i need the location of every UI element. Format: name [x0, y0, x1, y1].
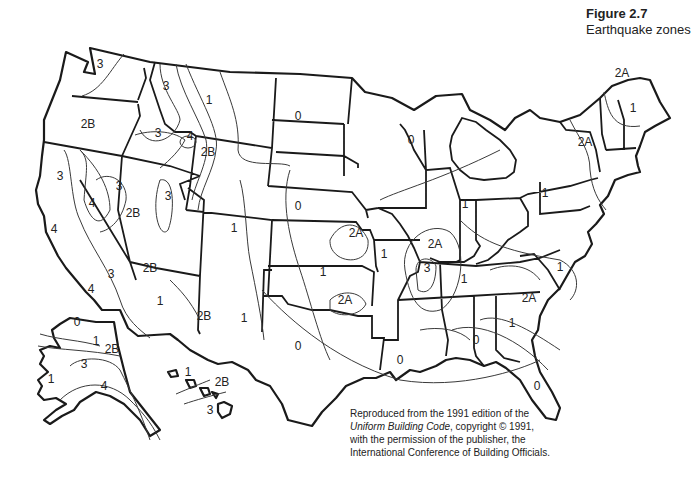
- zone-label-colorado: 1: [231, 221, 238, 235]
- zone-label-nevada: 2B: [126, 206, 141, 220]
- zone-label-tennessee: 1: [461, 272, 468, 286]
- zone-label-new-mexico-west: 2B: [197, 309, 212, 323]
- zone-label-georgia: 1: [509, 316, 516, 330]
- zone-label-alabama: 0: [473, 333, 480, 347]
- zone-label-new-mexico: 1: [241, 311, 248, 325]
- credit-copyright: , copyright © 1991,: [450, 421, 534, 432]
- zone-label-south-carolina: 2A: [522, 291, 537, 305]
- zone-label-new-york: 2A: [578, 135, 593, 149]
- zone-label-oregon: 2B: [81, 117, 96, 131]
- zone-label-hawaii-west: 1: [185, 365, 192, 379]
- zone-label-alaska-east: 2B: [105, 342, 120, 356]
- zone-label-alaska-coast: 4: [101, 379, 108, 393]
- zone-label-illinois-south: 2A: [428, 237, 443, 251]
- zone-label-maine-north: 2A: [615, 66, 630, 80]
- zone-label-idaho-north: 3: [163, 79, 170, 93]
- zone-label-north-carolina: 1: [557, 260, 564, 274]
- zone-label-arizona: 1: [157, 294, 164, 308]
- earthquake-zone-map: 32B31342B3342B341342B12B1002A12A0012A311…: [0, 0, 696, 480]
- zone-label-nevada-west: 3: [116, 179, 123, 193]
- zone-label-wyoming-west: 2B: [201, 145, 216, 159]
- zone-label-maine: 1: [630, 101, 637, 115]
- zone-label-louisiana: 0: [397, 353, 404, 367]
- zone-label-alaska-west: 1: [48, 372, 55, 386]
- credit-line-1: Reproduced from the 1991 edition of the: [350, 407, 580, 420]
- zone-label-alaska-north: 0: [74, 315, 81, 329]
- zone-label-indiana: 1: [462, 197, 469, 211]
- credit-book-title: Uniform Building Code: [350, 421, 450, 432]
- zone-label-montana: 1: [206, 93, 213, 107]
- zone-label-oklahoma-central: 2A: [338, 293, 353, 307]
- zone-label-yellowstone: 4: [187, 129, 194, 143]
- zone-label-kansas-east: 2A: [349, 226, 364, 240]
- zone-label-pennsylvania: 1: [542, 186, 549, 200]
- zone-labels: 32B31342B3342B341342B12B1002A12A0012A311…: [48, 57, 637, 417]
- zone-label-washington-west: 3: [97, 57, 104, 71]
- zone-label-missouri: 1: [381, 247, 388, 261]
- zone-label-california-southwest: 4: [88, 282, 95, 296]
- zone-label-north-dakota: 0: [295, 109, 302, 123]
- zone-label-alaska-south: 3: [81, 357, 88, 371]
- zone-label-arizona-north: 2B: [143, 261, 158, 275]
- zone-label-new-madrid: 3: [424, 261, 431, 275]
- zone-label-hawaii-big-island: 3: [207, 403, 214, 417]
- zone-label-texas: 0: [295, 339, 302, 353]
- zone-label-nevada-west-inner: 4: [89, 196, 96, 210]
- zone-label-idaho-south: 3: [155, 126, 162, 140]
- zone-label-florida: 0: [534, 379, 541, 393]
- zone-label-utah: 3: [165, 189, 172, 203]
- zone-label-california-north: 3: [57, 169, 64, 183]
- zone-label-alaska-central: 1: [93, 334, 100, 348]
- zone-label-oklahoma: 1: [320, 265, 327, 279]
- zone-label-hawaii-central: 2B: [215, 375, 230, 389]
- credit-line-3: with the permission of the publisher, th…: [350, 433, 580, 446]
- zone-label-wisconsin: 0: [408, 133, 415, 147]
- zone-label-california-coast: 4: [51, 222, 58, 236]
- credit-line-4: International Conference of Building Off…: [350, 446, 580, 459]
- zone-label-nebraska: 0: [295, 199, 302, 213]
- zone-label-california-south: 3: [108, 267, 115, 281]
- credit-line-2: Uniform Building Code, copyright © 1991,: [350, 420, 580, 433]
- credit-note: Reproduced from the 1991 edition of the …: [350, 407, 580, 459]
